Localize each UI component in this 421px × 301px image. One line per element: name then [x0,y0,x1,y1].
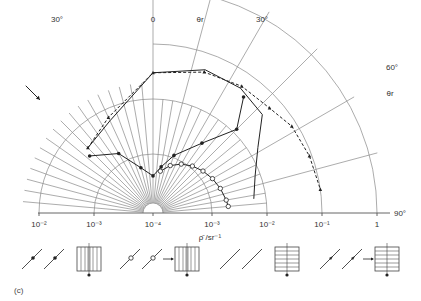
axis-labels: 10⁻²10⁻³10⁻⁴10⁻³10⁻²10⁻¹1ρ̄ /sr⁻¹30°0θr3… [26,15,406,242]
grid-arc-right [153,0,377,213]
filled-circle-icon [53,256,57,260]
radial-line [154,99,163,203]
detector-dot-icon [385,273,388,276]
filled-circle-marker [200,141,204,145]
radial-line [159,120,219,205]
angle-label: 0 [151,15,156,24]
filled-circle-marker [151,174,155,178]
open-circle-marker [201,169,205,173]
radial-line [27,179,143,210]
detector-dot-icon [285,273,288,276]
tick-label: 10⁻² [31,220,47,229]
radial-line [35,158,144,209]
data-series [86,70,322,209]
radial-line [157,110,201,204]
tick-label: 10⁻³ [204,220,220,229]
open-circle-marker [226,204,230,208]
angle-label: 60° [386,63,398,72]
legend-item-open [120,243,199,277]
arrow-marker [202,70,206,74]
radial-line [119,87,150,203]
angle-label: θr [386,89,393,98]
legend-item-plain [220,243,299,277]
detector-dot-icon [87,273,90,276]
radial-line [98,95,149,204]
tick-label: 10⁻¹ [314,220,330,229]
radial-line [163,203,267,212]
legend [22,243,399,277]
filled-circle-marker [139,166,143,170]
filled-circle-marker [117,152,121,156]
open-circle-marker [224,198,228,202]
arrow-marker [268,106,272,110]
open-circle-icon [129,256,133,260]
open-circle-icon [151,256,155,260]
tick-label: 1 [375,220,380,229]
legend-item-filled [22,243,101,277]
tick-label: 10⁻⁴ [145,220,162,229]
radial-line [155,101,173,203]
beam-line [242,249,262,269]
polar-reflectance-chart: 10⁻²10⁻³10⁻⁴10⁻³10⁻²10⁻¹1ρ̄ /sr⁻¹30°0θr3… [0,0,421,301]
radial-line [163,193,265,211]
radial-line [161,140,241,207]
radial-line [142,83,153,203]
open-circle-marker [210,176,214,180]
radial-line [69,113,146,205]
arrow-head-icon [171,258,174,261]
filled-circle-marker [235,128,239,132]
arrow-marker [319,187,323,191]
radial-line [163,153,378,211]
filled-circle-marker [242,95,246,99]
open-circle-marker [218,186,222,190]
radial-line [53,129,145,206]
filled-circle-icon [31,256,35,260]
series-line [88,70,262,199]
filled-circle-marker [88,154,92,158]
polar-grid [23,0,390,213]
x-axis-label: ρ̄ /sr⁻¹ [199,233,222,242]
radial-line [158,12,269,204]
open-circle-marker [168,163,172,167]
radial-line [23,202,143,213]
open-circle-marker [179,162,183,166]
tick-label: 10⁻² [259,220,275,229]
detector-dot-icon [185,273,188,276]
panel-label: (c) [14,286,23,295]
arrow-marker [290,124,294,128]
legend-item-arrow [320,243,399,277]
angle-label: 30° [256,15,268,24]
angle-label: 90° [394,209,406,218]
open-circle-marker [190,164,194,168]
beam-line [220,249,240,269]
tick-label: 10⁻³ [86,220,102,229]
radial-line [162,165,256,209]
angle-label: θr [196,15,203,24]
arrow-marker [240,84,244,88]
arrow-head-icon [371,258,374,261]
filled-circle-marker [159,165,163,169]
filled-circle-marker [172,154,176,158]
arrow-marker [107,115,111,119]
angle-label: 30° [51,15,63,24]
open-circle-marker [158,169,162,173]
